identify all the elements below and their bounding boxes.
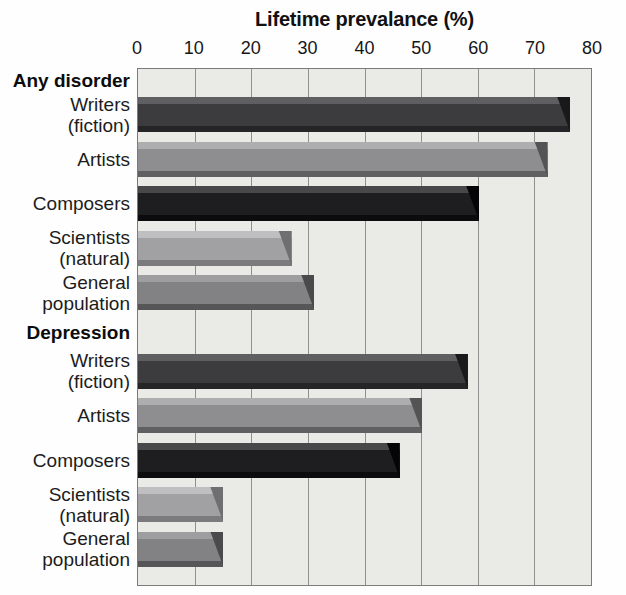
category-label-line: (fiction)	[68, 371, 130, 392]
bar-bevel-top	[138, 97, 570, 104]
x-tick-label: 20	[241, 38, 261, 59]
bar-track	[137, 354, 592, 389]
bar	[138, 97, 570, 132]
bar-bevel-top	[138, 231, 292, 238]
bar	[138, 487, 223, 522]
category-label: Scientists(natural)	[0, 231, 137, 266]
bar-bevel-bottom	[138, 171, 548, 177]
bar-bevel-bottom	[138, 215, 479, 221]
bar-row: Generalpopulation	[0, 275, 626, 320]
bar-row: Scientists(natural)	[0, 487, 626, 532]
bar-bevel-bottom	[138, 516, 223, 522]
bar-track	[137, 532, 592, 567]
category-label: Generalpopulation	[0, 275, 137, 310]
category-label-line: (natural)	[59, 248, 130, 269]
bar	[138, 142, 548, 177]
bar	[138, 275, 314, 310]
x-tick-label: 40	[354, 38, 374, 59]
category-label-line: Scientists	[49, 484, 130, 505]
x-tick-label: 0	[132, 38, 142, 59]
bar-bevel-bottom	[138, 427, 422, 433]
category-label-line: Artists	[77, 149, 130, 170]
bar-bevel-top	[138, 142, 548, 149]
bar-row: Scientists(natural)	[0, 231, 626, 276]
bar-face	[138, 361, 468, 383]
bar-bevel-bottom	[138, 126, 570, 132]
bar-face	[138, 193, 479, 215]
bar	[138, 186, 479, 221]
bar-bevel-bottom	[138, 472, 400, 478]
bar-chart: Lifetime prevalance (%) 0102030405060708…	[0, 0, 626, 595]
bar-row: Composers	[0, 186, 626, 231]
bar-row: Composers	[0, 443, 626, 488]
bar-face	[138, 450, 400, 472]
category-label-line: Composers	[33, 193, 130, 214]
bar	[138, 443, 400, 478]
category-label: Writers(fiction)	[0, 354, 137, 389]
x-tick-label: 80	[582, 38, 602, 59]
bar-row: Artists	[0, 398, 626, 443]
category-label-line: Composers	[33, 450, 130, 471]
x-tick-label: 60	[468, 38, 488, 59]
category-label: Artists	[0, 398, 137, 433]
bar-bevel-top	[138, 275, 314, 282]
chart-rows: Any disorderWriters(fiction)ArtistsCompo…	[0, 68, 626, 576]
group-label: Depression	[0, 320, 137, 354]
bar-face	[138, 238, 292, 260]
category-label: Writers(fiction)	[0, 97, 137, 132]
bar	[138, 354, 468, 389]
bar-track	[137, 142, 592, 177]
bar-track	[137, 231, 592, 266]
category-label: Artists	[0, 142, 137, 177]
bar-track	[137, 186, 592, 221]
bar	[138, 398, 422, 433]
category-label-line: Writers	[70, 350, 130, 371]
bar-face	[138, 104, 570, 126]
bar-track	[137, 487, 592, 522]
category-label-line: population	[42, 293, 130, 314]
bar-bevel-top	[138, 532, 223, 539]
group-header-row: Depression	[0, 320, 626, 354]
bar-track	[137, 398, 592, 433]
bar-row: Generalpopulation	[0, 532, 626, 577]
bar-face	[138, 494, 223, 516]
bar-bevel-top	[138, 487, 223, 494]
category-label-line: Scientists	[49, 227, 130, 248]
category-label-line: Artists	[77, 405, 130, 426]
bar-face	[138, 282, 314, 304]
category-label-line: (fiction)	[68, 115, 130, 136]
bar-face	[138, 405, 422, 427]
chart-title: Lifetime prevalance (%)	[137, 8, 592, 31]
bar-bevel-top	[138, 443, 400, 450]
bar	[138, 231, 292, 266]
bar-bevel-bottom	[138, 304, 314, 310]
x-tick-label: 10	[184, 38, 204, 59]
bar-track	[137, 97, 592, 132]
bar	[138, 532, 223, 567]
category-label: Scientists(natural)	[0, 487, 137, 522]
bar-track	[137, 443, 592, 478]
category-label-line: population	[42, 549, 130, 570]
bar-bevel-bottom	[138, 260, 292, 266]
x-tick-label: 30	[298, 38, 318, 59]
category-label-line: Writers	[70, 94, 130, 115]
category-label: Composers	[0, 186, 137, 221]
bar-track	[137, 275, 592, 310]
bar-bevel-top	[138, 354, 468, 361]
bar-row: Artists	[0, 142, 626, 187]
bar-row: Writers(fiction)	[0, 97, 626, 142]
category-label-line: General	[62, 528, 130, 549]
category-label-line: General	[62, 272, 130, 293]
x-tick-label: 70	[525, 38, 545, 59]
bar-bevel-bottom	[138, 561, 223, 567]
bar-bevel-bottom	[138, 383, 468, 389]
category-label-line: (natural)	[59, 505, 130, 526]
bar-face	[138, 539, 223, 561]
x-tick-label: 50	[411, 38, 431, 59]
x-axis-tick-row: 01020304050607080	[137, 38, 592, 62]
bar-bevel-top	[138, 186, 479, 193]
bar-bevel-top	[138, 398, 422, 405]
category-label: Composers	[0, 443, 137, 478]
bar-row: Writers(fiction)	[0, 354, 626, 399]
category-label: Generalpopulation	[0, 532, 137, 567]
